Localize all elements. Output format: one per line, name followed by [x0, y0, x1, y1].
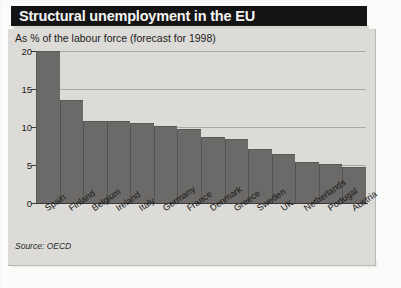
- x-axis-category-labels: SpainFinlandBelgiumIrelandItalyGermanyFr…: [36, 205, 376, 249]
- y-tick-label: 5: [27, 160, 32, 171]
- bar: [36, 51, 60, 203]
- bar: [154, 126, 178, 203]
- page-title: Structural unemployment in the EU: [19, 8, 255, 24]
- y-tick-label: 10: [21, 122, 32, 133]
- chart-subtitle: As % of the labour force (forecast for 1…: [15, 32, 216, 44]
- y-tick-label: 0: [27, 198, 32, 209]
- bar-series: [36, 51, 366, 203]
- y-tick-label: 15: [21, 84, 32, 95]
- plot-area: 05101520: [36, 51, 366, 203]
- source-note: Source: OECD: [15, 241, 71, 251]
- y-tick-label: 20: [21, 46, 32, 57]
- chart-title-bar: Structural unemployment in the EU: [11, 6, 367, 26]
- bar: [60, 100, 84, 203]
- chart-panel: As % of the labour force (forecast for 1…: [8, 29, 376, 266]
- figure-root: Structural unemployment in the EU As % o…: [0, 0, 401, 288]
